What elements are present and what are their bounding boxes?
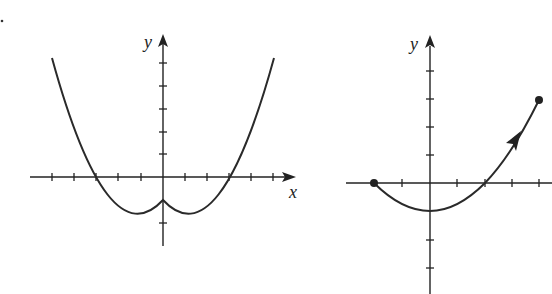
x-axis-label: x [288,182,297,202]
parametric-curve [374,100,539,211]
direction-arrow-icon [506,131,521,151]
y-axis-label: y [408,34,418,54]
stray-mark [1,20,4,23]
left-graph: x y [30,32,297,246]
y-axis-label: y [142,32,152,52]
end-point [535,96,543,104]
right-graph: y [346,34,552,294]
start-point [370,179,378,187]
